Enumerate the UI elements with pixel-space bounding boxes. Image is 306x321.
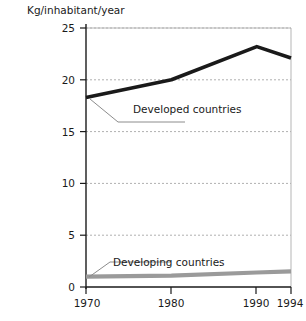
x-tick-marks <box>86 287 291 294</box>
x-tick-label-1970: 1970 <box>74 297 101 309</box>
y-tick-label-5: 5 <box>68 229 75 241</box>
series-line-developed <box>86 47 291 98</box>
series-line-developing <box>86 271 291 276</box>
x-tick-label-1994: 1994 <box>277 297 304 309</box>
line-chart: Kg/inhabitant/year 25 20 <box>0 0 306 321</box>
plot-frame <box>86 28 291 287</box>
annotation-developed-countries: Developed countries <box>133 103 241 115</box>
y-tick-label-15: 15 <box>62 126 75 138</box>
y-tick-label-0: 0 <box>68 281 75 293</box>
annotation-developing-countries: Developing countries <box>113 256 225 268</box>
y-tick-label-20: 20 <box>62 74 75 86</box>
x-tick-label-1990: 1990 <box>243 297 270 309</box>
y-tick-marks <box>80 28 86 287</box>
gridlines <box>86 28 291 235</box>
chart-container: Kg/inhabitant/year 25 20 <box>0 0 306 321</box>
chart-unit-title: Kg/inhabitant/year <box>27 4 125 16</box>
x-tick-label-1980: 1980 <box>158 297 185 309</box>
y-tick-label-25: 25 <box>62 22 75 34</box>
y-tick-label-10: 10 <box>62 177 75 189</box>
